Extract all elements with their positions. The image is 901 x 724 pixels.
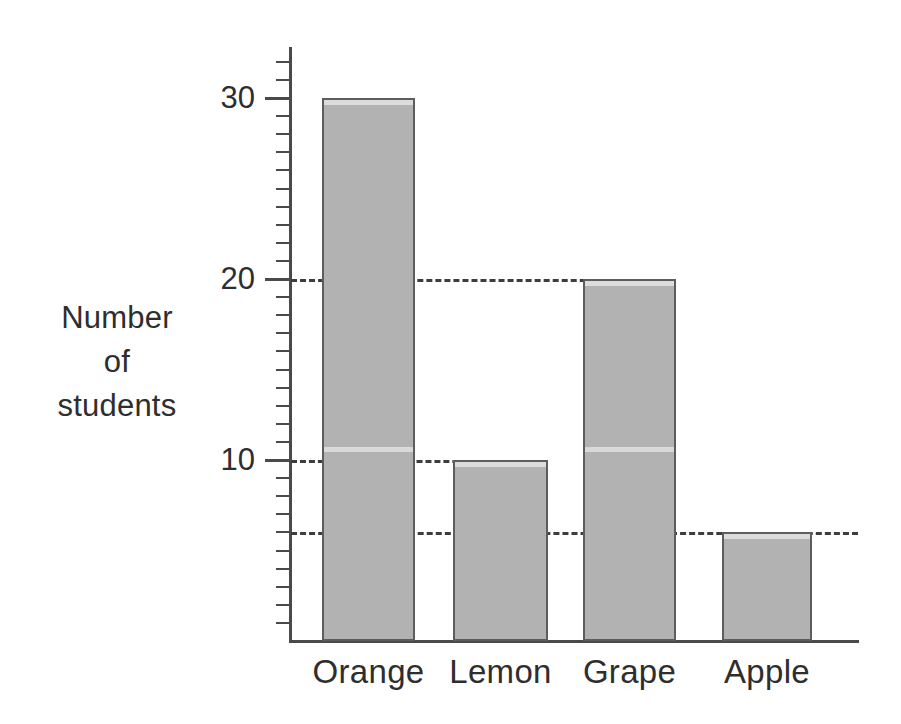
y-axis-minor-tick [276, 477, 290, 479]
y-axis-major-tick [265, 97, 291, 100]
y-axis-minor-tick [276, 314, 290, 316]
y-axis-minor-tick [276, 169, 290, 171]
y-axis-minor-tick [276, 622, 290, 624]
y-axis-major-tick [265, 459, 291, 462]
bar-orange [322, 98, 415, 641]
y-axis-minor-tick [276, 495, 290, 497]
y-axis-title-line-2: of [22, 340, 212, 384]
bar-scan-artifact [324, 447, 413, 452]
y-axis-minor-tick [276, 550, 290, 552]
y-axis-minor-tick [276, 332, 290, 334]
y-axis-minor-tick [276, 133, 290, 135]
y-axis-minor-tick [276, 604, 290, 606]
y-axis-minor-tick [276, 224, 290, 226]
y-axis-tick-label: 20 [183, 263, 255, 294]
y-axis-minor-tick [276, 296, 290, 298]
bar-apple [722, 532, 812, 641]
y-axis-minor-tick [276, 350, 290, 352]
y-axis-major-tick [265, 278, 291, 281]
y-axis-minor-tick [276, 242, 290, 244]
y-axis-minor-tick [276, 405, 290, 407]
y-axis-minor-tick [276, 151, 290, 153]
y-axis-minor-tick [276, 423, 290, 425]
y-axis-minor-tick [276, 260, 290, 262]
y-axis-minor-tick [276, 188, 290, 190]
y-axis-title-line-3: students [22, 384, 212, 428]
x-axis-label-grape: Grape [550, 652, 710, 692]
bar-lemon [453, 460, 548, 641]
bar-scan-artifact [585, 447, 674, 452]
y-axis-minor-tick [276, 586, 290, 588]
y-axis-tick-label: 10 [183, 444, 255, 475]
y-axis-minor-tick [276, 387, 290, 389]
y-axis-tick-label: 30 [183, 82, 255, 113]
bar-grape [583, 279, 676, 641]
y-axis-minor-tick [276, 115, 290, 117]
y-axis-title: Number of students [22, 296, 212, 428]
y-axis-minor-tick [276, 513, 290, 515]
bar-chart: Number of students 102030 OrangeLemonGra… [0, 0, 901, 724]
y-axis-minor-tick [276, 568, 290, 570]
y-axis-minor-tick [276, 531, 290, 533]
y-axis-minor-tick [276, 79, 290, 81]
x-axis-label-apple: Apple [687, 652, 847, 692]
y-axis-minor-tick [276, 206, 290, 208]
y-axis-line [289, 47, 292, 643]
y-axis-minor-tick [276, 441, 290, 443]
y-axis-minor-tick [276, 61, 290, 63]
y-axis-title-line-1: Number [22, 296, 212, 340]
y-axis-minor-tick [276, 369, 290, 371]
